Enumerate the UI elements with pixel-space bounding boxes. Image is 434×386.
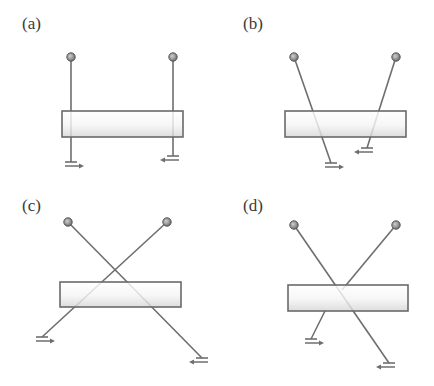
wire-line xyxy=(294,57,331,163)
bulb-terminal-icon xyxy=(67,53,75,61)
bulb-terminal-icon xyxy=(392,221,400,229)
arrowhead-left-icon xyxy=(160,158,165,163)
arrowhead-left-icon xyxy=(189,360,194,365)
bulb-terminal-icon xyxy=(163,218,171,226)
bar-rectangle xyxy=(285,111,406,137)
panel-d xyxy=(288,221,408,370)
wire-line xyxy=(42,222,167,337)
arrowhead-left-icon xyxy=(354,150,359,155)
wire-line xyxy=(311,311,325,339)
bulb-terminal-icon xyxy=(290,221,298,229)
arrowhead-left-icon xyxy=(376,365,381,370)
bar-rectangle xyxy=(60,282,181,307)
diagram-canvas xyxy=(0,0,434,386)
bulb-terminal-icon xyxy=(169,53,177,61)
panel-c xyxy=(36,218,208,365)
wire-line xyxy=(342,225,396,290)
bulb-terminal-icon xyxy=(392,53,400,61)
bar-rectangle xyxy=(288,285,408,311)
arrowhead-right-icon xyxy=(79,164,84,169)
arrowhead-right-icon xyxy=(50,339,55,344)
arrowhead-right-icon xyxy=(319,341,324,346)
bulb-terminal-icon xyxy=(64,218,72,226)
arrowhead-right-icon xyxy=(339,165,344,170)
panel-b xyxy=(285,53,406,170)
panel-a xyxy=(62,53,183,169)
bulb-terminal-icon xyxy=(290,53,298,61)
bar-rectangle xyxy=(62,111,183,137)
